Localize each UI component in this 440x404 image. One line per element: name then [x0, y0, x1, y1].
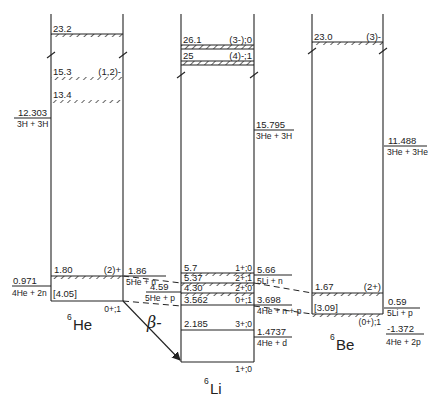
threshold-channel: 4He + n + p [257, 306, 302, 316]
level-energy: 15.3 [53, 66, 72, 77]
nucleus-name: He [73, 316, 92, 333]
level-jpi: (3-);0 [229, 34, 252, 45]
threshold-energy: -1.372 [387, 323, 414, 334]
energy-level-diagram: 23.2 15.3 (1,2)- 13.4 12.303 3H + 3H 1.8… [0, 0, 440, 404]
level-hatch [181, 61, 254, 65]
threshold-channel: 5Li + n [257, 276, 283, 286]
nucleus-name: Be [336, 336, 354, 353]
threshold-channel: 5He + p [145, 293, 175, 303]
level-jpi: 2+;0 [235, 283, 252, 293]
ground-state-jpi: (0+);1 [359, 317, 382, 327]
he6-column: 23.2 15.3 (1,2)- 13.4 12.303 3H + 3H 1.8… [12, 14, 127, 333]
threshold-energy: 12.303 [18, 107, 47, 118]
threshold-channel: 4He + 2n [12, 288, 47, 298]
level-energy: 23.0 [314, 31, 333, 42]
level-jpi: 3+;0 [235, 319, 252, 329]
nucleus-mass-number: 6 [330, 332, 335, 342]
nucleus-name: Li [210, 380, 222, 397]
box-label: [3.09] [314, 302, 338, 313]
box-label: [4.05] [53, 288, 77, 299]
level-jpi: 0+;1 [235, 295, 252, 305]
level-jpi: (4)-;1 [229, 50, 252, 61]
level-hatch [181, 45, 254, 49]
level-energy: 26.1 [183, 34, 202, 45]
level-jpi: (1,2)- [98, 66, 121, 77]
level-energy: 2.185 [184, 318, 208, 329]
level-energy: 3.562 [184, 294, 208, 305]
level-energy: 25 [183, 50, 194, 61]
threshold-energy: 0.59 [388, 296, 407, 307]
level-energy: 1.80 [54, 264, 73, 275]
threshold-energy: 3.698 [257, 294, 281, 305]
threshold-energy: 1.86 [128, 265, 147, 276]
nucleus-mass-number: 6 [204, 376, 209, 386]
threshold-channel: 4He + 2p [386, 337, 421, 347]
threshold-energy: 11.488 [388, 135, 416, 146]
level-energy: 4.30 [184, 282, 203, 293]
threshold-energy: 15.795 [256, 119, 285, 130]
threshold-energy: 0.971 [13, 275, 37, 286]
threshold-channel: 3H + 3H [17, 119, 48, 129]
threshold-channel: 4He + d [257, 338, 287, 348]
level-hatch [51, 77, 123, 80]
level-jpi: 1+;0 [235, 263, 252, 273]
level-jpi: (3)- [366, 31, 381, 42]
level-energy: 1.67 [315, 281, 334, 292]
beta-decay-label: β- [146, 313, 162, 332]
threshold-energy: 1.4737 [257, 326, 286, 337]
ground-state-jpi: 0+;1 [104, 304, 121, 314]
nucleus-mass-number: 6 [67, 312, 72, 322]
threshold-channel: 5Li + p [387, 308, 413, 318]
level-energy: 23.2 [53, 23, 72, 34]
threshold-energy: 4.59 [150, 281, 169, 292]
li6-column: 26.1 (3-);0 25 (4)-;1 15.795 3He + 3H 5.… [124, 14, 302, 397]
level-energy: 13.4 [53, 89, 72, 100]
level-jpi: (2)+ [104, 264, 122, 275]
threshold-channel: 3He + 3H [256, 131, 292, 141]
threshold-channel: 3He + 3He [387, 147, 428, 157]
ground-state-jpi: 1+;0 [235, 364, 252, 374]
be6-column: 23.0 (3)- 11.488 3He + 3He 1.67 (2+) [3.… [308, 14, 428, 353]
level-hatch [51, 100, 123, 103]
threshold-energy: 5.66 [257, 264, 276, 275]
level-jpi: (2+) [364, 281, 381, 292]
level-jpi: 2+;1 [235, 273, 252, 283]
